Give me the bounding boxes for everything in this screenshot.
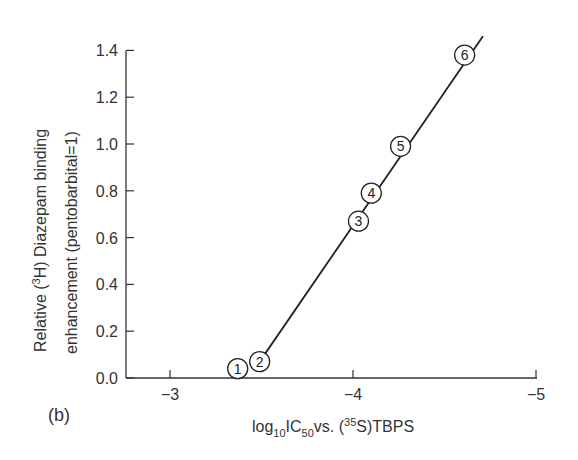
data-point-label: 1: [234, 361, 242, 377]
y-axis-label-line2: enhancement (pentobarbital=1): [63, 131, 81, 354]
data-point-label: 4: [367, 185, 375, 201]
y-tick-label: 0.8: [96, 183, 118, 200]
x-axis-label: log10IC50vs. (35S)TBPS: [252, 416, 414, 439]
data-point-label: 6: [461, 47, 469, 63]
y-tick-label: 1.0: [96, 136, 118, 153]
y-tick-label: 0.4: [96, 276, 118, 293]
data-point-label: 2: [256, 354, 264, 370]
y-tick-label: 0.6: [96, 230, 118, 247]
y-tick-label: 1.2: [96, 89, 118, 106]
y-tick-label: 1.4: [96, 42, 118, 59]
y-tick-label: 0.2: [96, 323, 118, 340]
x-tick-label: −3: [161, 386, 179, 403]
panel-label: (b): [48, 405, 70, 426]
x-tick-label: −4: [344, 386, 362, 403]
data-point-label: 3: [355, 213, 363, 229]
x-tick-label: −5: [527, 386, 545, 403]
chart-plot: 0.00.20.40.60.81.01.21.4−3−4−5123456: [0, 0, 578, 460]
y-axis-label-line1: Relative (3H) Diazepam binding: [30, 129, 50, 352]
data-point-label: 5: [397, 138, 405, 154]
y-tick-label: 0.0: [96, 370, 118, 387]
